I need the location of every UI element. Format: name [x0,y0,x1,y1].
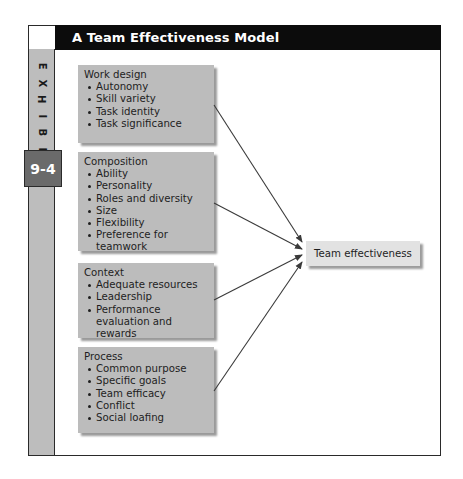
factor-box-composition: Composition Ability Personality Roles an… [78,152,214,251]
exhibit-letter: X [33,79,50,87]
factor-item: Task significance [84,118,214,130]
factor-item: Leadership [84,291,206,303]
factor-box-work-design: Work design Autonomy Skill variety Task … [78,65,214,143]
exhibit-letter: B [33,128,50,136]
factor-item: Specific goals [84,375,214,387]
factor-item: Skill variety [84,93,214,105]
factor-item: Flexibility [84,217,214,229]
exhibit-letter: I [33,114,50,118]
factor-list: Autonomy Skill variety Task identity Tas… [84,81,214,130]
factor-title: Process [84,351,214,363]
factor-box-process: Process Common purpose Specific goals Te… [78,347,214,433]
factor-list: Common purpose Specific goals Team effic… [84,363,214,424]
factor-item: Conflict [84,400,214,412]
factor-item: Ability [84,168,214,180]
exhibit-letter: H [33,95,50,103]
factor-item: Autonomy [84,81,214,93]
factor-title: Composition [84,156,214,168]
exhibit-number-badge: 9-4 [24,150,62,187]
factor-item: Preference for teamwork [84,229,214,253]
factor-item: Common purpose [84,363,214,375]
exhibit-title: A Team Effectiveness Model [55,25,441,50]
factor-title: Work design [84,69,214,81]
factor-item: Personality [84,180,214,192]
factor-item: Size [84,205,214,217]
factor-item: Performance evaluation and rewards [84,304,206,341]
factor-item: Social loafing [84,412,214,424]
factor-item: Task identity [84,106,214,118]
factor-item: Roles and diversity [84,193,214,205]
factor-box-context: Context Adequate resources Leadership Pe… [78,263,214,338]
factor-item: Adequate resources [84,279,206,291]
factor-list: Adequate resources Leadership Performanc… [84,279,214,340]
factor-item: Team efficacy [84,388,214,400]
exhibit-letter: E [33,63,50,70]
outcome-box-team-effectiveness: Team effectiveness [306,241,420,266]
factor-title: Context [84,267,214,279]
factor-list: Ability Personality Roles and diversity … [84,168,214,253]
